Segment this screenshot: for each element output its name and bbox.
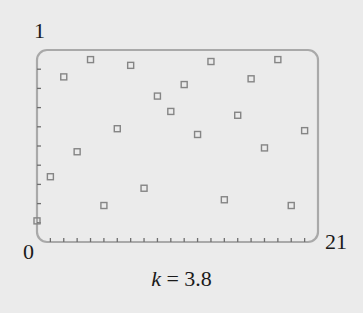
parameter-value: = 3.8 [161,266,212,291]
data-point-marker [128,62,134,68]
data-point-marker [168,108,174,114]
data-point-marker [114,126,120,132]
data-point-marker [181,82,187,88]
data-point-marker [248,76,254,82]
origin-label: 0 [23,241,34,263]
y-axis-max-label: 1 [34,20,45,42]
data-point-marker [275,57,281,63]
data-point-marker [288,203,294,209]
data-point-marker [208,59,214,65]
data-point-marker [302,128,308,134]
parameter-annotation: k = 3.8 [0,268,363,290]
data-point-marker [101,203,107,209]
plot-border [37,50,318,242]
data-points [34,57,308,224]
axis-ticks [37,69,305,242]
data-point-marker [221,197,227,203]
data-point-marker [74,149,80,155]
data-point-marker [195,131,201,137]
data-point-marker [61,74,67,80]
x-axis-max-label: 21 [325,231,347,253]
parameter-name: k [151,266,161,291]
data-point-marker [47,174,53,180]
plot-frame [37,50,318,242]
data-point-marker [261,145,267,151]
data-point-marker [141,185,147,191]
data-point-marker [154,93,160,99]
data-point-marker [235,112,241,118]
data-point-marker [88,57,94,63]
